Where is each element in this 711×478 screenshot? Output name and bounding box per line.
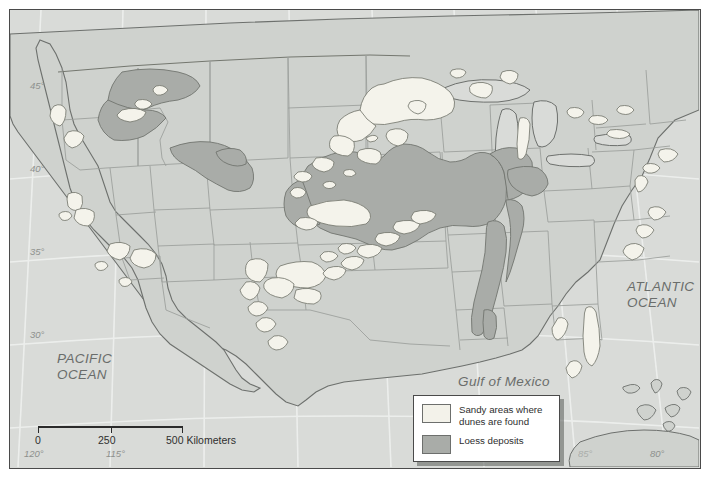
legend-swatch-sandy-dunes [422,404,451,423]
scale-bar-labels: 0 250 500 Kilometers [38,434,253,448]
map-frame: PACIFIC OCEAN ATLANTIC OCEAN Gulf of Mex… [9,9,701,469]
scale-bar-line [38,426,183,433]
legend-item-loess-deposits: Loess deposits [422,434,551,454]
legend-label-sandy-dunes: Sandy areas where dunes are found [459,403,542,428]
map-legend: Sandy areas where dunes are found Loess … [413,395,560,462]
scale-bar: 0 250 500 Kilometers [38,426,253,448]
legend-label-loess-deposits: Loess deposits [459,434,524,447]
scale-label-end: 500 Kilometers [166,434,236,446]
legend-swatch-loess-deposits [422,435,451,454]
legend-item-sandy-dunes: Sandy areas where dunes are found [422,403,551,428]
us-map-graphic [10,10,699,467]
scale-label-mid: 250 [98,434,116,446]
scale-label-zero: 0 [35,434,41,446]
map-page: PACIFIC OCEAN ATLANTIC OCEAN Gulf of Mex… [0,0,711,478]
